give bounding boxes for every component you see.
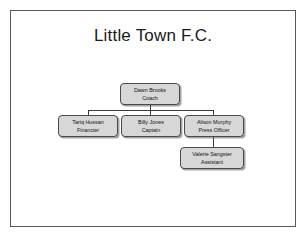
org-node-role: Press Officer bbox=[185, 126, 243, 134]
slide-canvas: Little Town F.C. Dawn Brooks Coach Tariq… bbox=[0, 0, 308, 239]
org-node-name: Tariq Hussan bbox=[59, 118, 117, 126]
org-node-role: Coach bbox=[121, 94, 179, 102]
org-node-financier[interactable]: Tariq Hussan Financier bbox=[58, 115, 118, 137]
org-node-role: Financier bbox=[59, 126, 117, 134]
org-node-name: Billy Jones bbox=[122, 118, 180, 126]
org-node-captain[interactable]: Billy Jones Captain bbox=[121, 115, 181, 137]
connector-press-to-assistant bbox=[213, 137, 214, 147]
org-node-name: Alison Murphy bbox=[185, 118, 243, 126]
org-node-assistant[interactable]: Valerie Sangster Assistant bbox=[180, 147, 244, 169]
org-node-role: Captain bbox=[122, 126, 180, 134]
org-node-role: Assistant bbox=[181, 158, 243, 166]
org-node-coach[interactable]: Dawn Brooks Coach bbox=[120, 83, 180, 105]
org-node-name: Dawn Brooks bbox=[121, 86, 179, 94]
organizational-chart: Dawn Brooks Coach Tariq Hussan Financier… bbox=[0, 0, 308, 239]
org-node-press-officer[interactable]: Alison Murphy Press Officer bbox=[184, 115, 244, 137]
org-node-name: Valerie Sangster bbox=[181, 150, 243, 158]
